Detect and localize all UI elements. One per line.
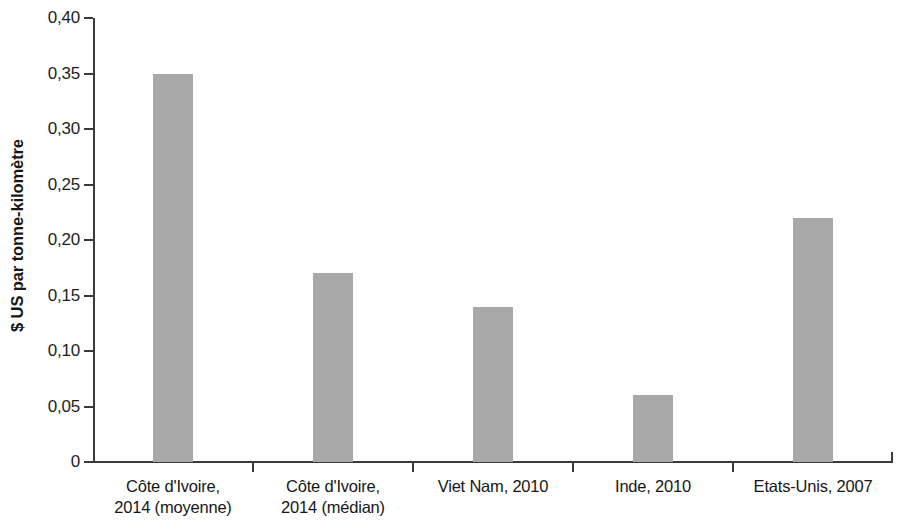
x-axis-separator-tick bbox=[412, 462, 414, 472]
x-tick-label-line1: Côte d'Ivoire, bbox=[286, 477, 380, 495]
x-tick-label-line2: 2014 (moyenne) bbox=[93, 497, 253, 518]
x-tick-label: Inde, 2010 bbox=[573, 476, 733, 497]
y-tick-label: 0,20 bbox=[0, 231, 80, 248]
x-tick-label-line1: Viet Nam, 2010 bbox=[438, 477, 549, 495]
y-tick-label: 0 bbox=[0, 453, 80, 470]
y-tick-mark bbox=[84, 184, 93, 186]
y-tick-label: 0,05 bbox=[0, 398, 80, 415]
y-tick-label: 0,30 bbox=[0, 120, 80, 137]
y-tick-mark bbox=[84, 350, 93, 352]
y-tick-mark bbox=[84, 239, 93, 241]
x-tick-label-line1: Côte d'Ivoire, bbox=[126, 477, 220, 495]
y-tick-mark bbox=[84, 128, 93, 130]
y-tick-label: 0,15 bbox=[0, 287, 80, 304]
y-tick-label: 0,10 bbox=[0, 342, 80, 359]
y-tick-mark bbox=[84, 295, 93, 297]
x-tick-label: Etats-Unis, 2007 bbox=[733, 476, 893, 497]
x-tick-label-line2: 2014 (médian) bbox=[253, 497, 413, 518]
x-axis-separator-tick bbox=[732, 462, 734, 472]
y-tick-mark bbox=[84, 461, 93, 463]
bar bbox=[793, 218, 833, 462]
x-axis-end-cap bbox=[891, 452, 893, 462]
x-axis-separator-tick bbox=[572, 462, 574, 472]
x-tick-label-line1: Inde, 2010 bbox=[615, 477, 691, 495]
bar bbox=[313, 273, 353, 462]
y-axis-line bbox=[93, 18, 95, 463]
y-tick-label: 0,35 bbox=[0, 65, 80, 82]
x-tick-label-line1: Etats-Unis, 2007 bbox=[754, 477, 873, 495]
y-tick-mark bbox=[84, 406, 93, 408]
x-tick-label: Viet Nam, 2010 bbox=[413, 476, 573, 497]
y-tick-mark bbox=[84, 17, 93, 19]
x-tick-label: Côte d'Ivoire,2014 (médian) bbox=[253, 476, 413, 518]
bar bbox=[633, 395, 673, 462]
y-tick-mark bbox=[84, 73, 93, 75]
bar bbox=[153, 74, 193, 463]
y-tick-label: 0,40 bbox=[0, 9, 80, 26]
bar-chart: $ US par tonne-kilomètre 00,050,100,150,… bbox=[0, 0, 901, 528]
x-axis-separator-tick bbox=[252, 462, 254, 472]
bar bbox=[473, 307, 513, 462]
y-tick-label: 0,25 bbox=[0, 176, 80, 193]
x-tick-label: Côte d'Ivoire,2014 (moyenne) bbox=[93, 476, 253, 518]
